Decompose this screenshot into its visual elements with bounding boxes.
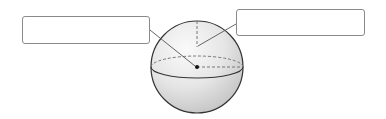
label-box-center[interactable] <box>22 16 150 44</box>
label-box-radius[interactable] <box>236 9 365 36</box>
sphere-diagram <box>0 0 386 119</box>
center-point <box>195 65 199 69</box>
